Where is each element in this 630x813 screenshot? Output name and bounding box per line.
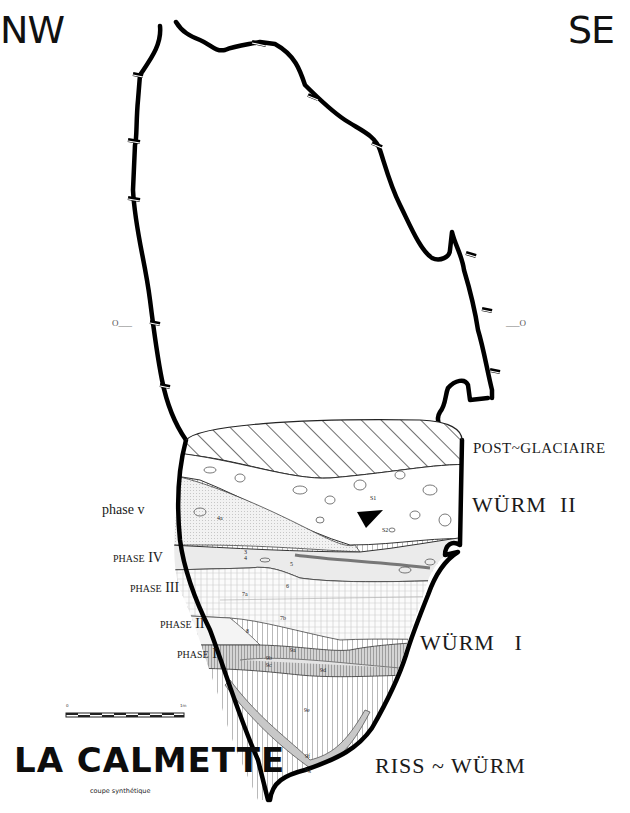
period-label-wurm-1: WÜRM I — [420, 630, 523, 656]
svg-text:9f: 9f — [305, 753, 310, 759]
svg-text:7b: 7b — [280, 615, 286, 621]
scale-start-label: 0 — [66, 703, 69, 708]
svg-text:9e: 9e — [304, 707, 310, 713]
period-label-riss-wurm: RISS ~ WÜRM — [375, 753, 526, 779]
svg-text:4: 4 — [244, 555, 247, 561]
period-label-post-glaciaire: POST~GLACIAIRE — [473, 440, 606, 457]
phase-label-i: phase I — [177, 646, 217, 662]
svg-text:9d: 9d — [320, 667, 326, 673]
svg-text:S2: S2 — [382, 527, 388, 533]
svg-text:9c: 9c — [266, 662, 272, 668]
svg-text:9b: 9b — [266, 655, 272, 661]
datum-marker-right: ___O — [506, 318, 526, 328]
svg-text:S1: S1 — [370, 495, 376, 501]
diagram-title: LA CALMETTE — [14, 740, 285, 780]
svg-text:4a: 4a — [217, 515, 223, 521]
svg-text:7a: 7a — [242, 591, 248, 597]
phase-label-v: phase v — [102, 502, 144, 518]
svg-text:6: 6 — [286, 583, 289, 589]
svg-text:8: 8 — [246, 628, 249, 634]
phase-label-iii: phase III — [130, 580, 179, 596]
phase-label-ii: phase II — [160, 616, 205, 632]
svg-text:9g: 9g — [305, 767, 311, 773]
phase-label-iv: phase IV — [113, 550, 163, 566]
scale-end-label: 1m — [180, 703, 186, 708]
datum-marker-left: O___ — [112, 318, 132, 328]
svg-text:9a: 9a — [290, 647, 296, 653]
scale-bar — [66, 713, 184, 717]
cave-outline-upper — [133, 26, 186, 440]
svg-text:5: 5 — [290, 561, 293, 567]
period-label-wurm-2: WÜRM II — [472, 492, 577, 518]
diagram-subtitle: coupe synthétique — [90, 787, 150, 795]
cave-section-drawing: S1 S2 4a 3 4 5 6 7a 7b 8 9a 9b 9c 9d 9e … — [0, 0, 630, 813]
